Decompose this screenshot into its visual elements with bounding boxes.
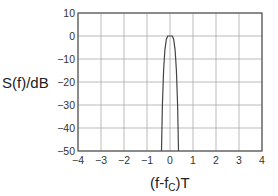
x-tick-label: −1: [141, 154, 153, 166]
chart-canvas: −4−3−2−101234 100−10−20−30−40−50 S(f)/dB…: [0, 0, 278, 196]
x-axis-label: (f-fC)T: [150, 174, 190, 193]
x-tick-label: 0: [167, 154, 173, 166]
y-tick-label: −40: [57, 122, 75, 134]
grid-lines: [78, 13, 262, 151]
y-axis-label: S(f)/dB: [2, 74, 49, 91]
y-tick-label: −20: [57, 76, 75, 88]
y-tick-label: −10: [57, 53, 75, 65]
x-tick-label: 1: [190, 154, 196, 166]
y-tick-label: 0: [69, 30, 75, 42]
y-tick-label: 10: [63, 7, 75, 19]
x-tick-label: −3: [95, 154, 107, 166]
y-tick-label: −50: [57, 145, 75, 157]
x-tick-label: 4: [259, 154, 265, 166]
y-tick-label: −30: [57, 99, 75, 111]
x-tick-label: 2: [213, 154, 219, 166]
x-tick-labels: −4−3−2−101234: [72, 154, 265, 166]
x-tick-label: −2: [118, 154, 130, 166]
x-tick-label: 3: [236, 154, 242, 166]
y-tick-labels: 100−10−20−30−40−50: [57, 7, 75, 157]
